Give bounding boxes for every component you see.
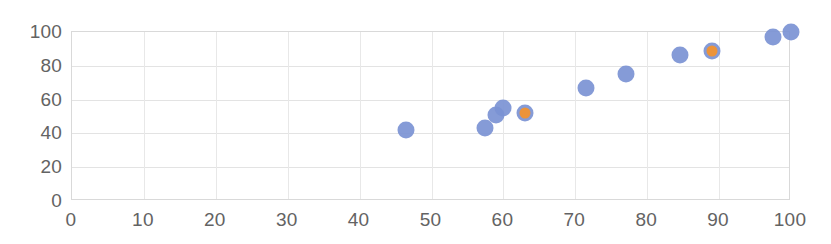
gridline-vertical	[647, 32, 648, 199]
data-point	[765, 29, 782, 46]
data-point	[578, 79, 595, 96]
y-axis-tick-label: 80	[6, 55, 62, 74]
gridline-vertical	[719, 32, 720, 199]
gridline-vertical	[432, 32, 433, 199]
x-axis-tick-label: 0	[36, 210, 106, 229]
gridline-horizontal	[72, 133, 789, 134]
y-axis-tick-label: 20	[6, 157, 62, 176]
y-axis-tick-label: 60	[6, 89, 62, 108]
x-axis-tick-label: 80	[611, 210, 681, 229]
scatter-chart-screenshot: 020406080100 0102030405060708090100	[0, 0, 831, 244]
x-axis-tick-label: 10	[108, 210, 178, 229]
gridline-vertical	[575, 32, 576, 199]
x-axis-tick-label: 60	[467, 210, 537, 229]
data-point	[706, 45, 717, 56]
gridline-horizontal	[72, 66, 789, 67]
gridline-horizontal	[72, 167, 789, 168]
gridline-horizontal	[72, 100, 789, 101]
gridline-vertical	[288, 32, 289, 199]
gridline-vertical	[216, 32, 217, 199]
x-axis-tick-label: 40	[324, 210, 394, 229]
x-axis-tick-label: 70	[539, 210, 609, 229]
y-axis-tick-label: 0	[6, 191, 62, 210]
data-point	[495, 100, 512, 117]
plot-area	[71, 31, 790, 200]
gridline-vertical	[360, 32, 361, 199]
data-point	[519, 108, 530, 119]
x-axis-tick-label: 100	[755, 210, 825, 229]
x-axis-tick-label: 30	[252, 210, 322, 229]
x-axis-tick-label: 20	[180, 210, 250, 229]
gridline-vertical	[144, 32, 145, 199]
data-point	[671, 46, 688, 63]
x-axis-tick-label: 50	[396, 210, 466, 229]
data-point	[398, 122, 415, 139]
x-axis-tick-labels: 0102030405060708090100	[0, 210, 831, 240]
y-axis-tick-labels: 020406080100	[0, 0, 62, 244]
y-axis-tick-label: 40	[6, 123, 62, 142]
x-axis-tick-label: 90	[683, 210, 753, 229]
data-point	[783, 24, 800, 41]
y-axis-tick-label: 100	[6, 22, 62, 41]
data-point	[617, 66, 634, 83]
